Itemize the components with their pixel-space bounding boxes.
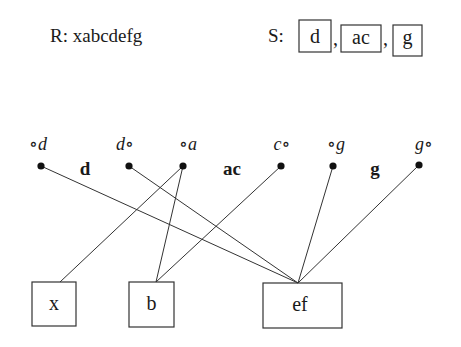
s-item-d: d [299, 20, 331, 52]
node-g-right [415, 161, 422, 168]
s-item-text: ac [352, 26, 370, 48]
edge-c-right-to-b [156, 166, 281, 282]
node-label-a-left: ∘a [179, 134, 197, 154]
box-x-label: x [49, 292, 59, 314]
box-x: x [32, 282, 76, 326]
s-separator: , [383, 27, 388, 49]
node-c-right [277, 162, 284, 169]
s-prefix-label: S: [268, 25, 284, 46]
node-label-d-right: d∘ [116, 134, 134, 154]
segment-label-g: g [370, 158, 380, 179]
edges-layer [41, 165, 419, 283]
diagram-canvas: R: xabcdefg S: d , ac , g ∘d d∘ ∘a c∘ ∘g… [0, 0, 461, 347]
r-string-label: R: xabcdefg [50, 25, 143, 46]
node-g-left [329, 162, 336, 169]
segment-label-d: d [80, 158, 91, 179]
s-item-ac: ac [341, 25, 381, 52]
s-separator: , [333, 27, 338, 49]
node-label-g-left: ∘g [327, 134, 345, 154]
node-d-right [125, 162, 132, 169]
edge-d-right-to-ef [129, 166, 298, 283]
s-item-g: g [393, 25, 422, 56]
box-b: b [129, 282, 174, 327]
edge-a-left-to-b [156, 166, 183, 282]
s-item-text: d [310, 25, 320, 47]
node-label-d-left: ∘d [29, 134, 48, 154]
box-ef: ef [263, 283, 342, 328]
node-label-g-right: g∘ [415, 134, 433, 154]
s-item-text: g [403, 26, 413, 49]
node-d-left [37, 162, 44, 169]
segment-label-ac: ac [223, 158, 241, 179]
node-a-left [179, 162, 186, 169]
node-label-c-right: c∘ [274, 134, 291, 154]
box-ef-label: ef [292, 293, 308, 315]
box-b-label: b [147, 292, 157, 314]
